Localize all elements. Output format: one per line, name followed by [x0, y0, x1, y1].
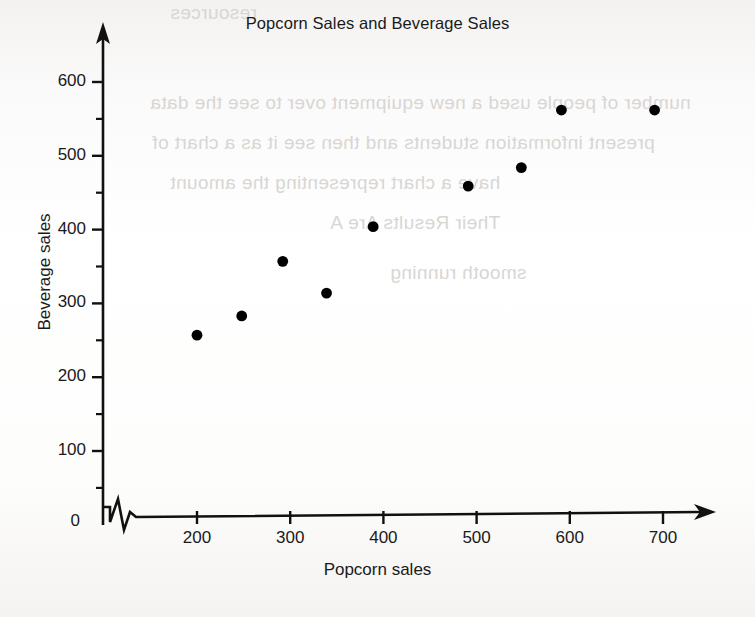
- y-axis-label: Beverage sales: [35, 182, 55, 362]
- x-tick-label: 600: [540, 528, 600, 548]
- data-point: [556, 105, 567, 116]
- plot-canvas: [0, 0, 755, 617]
- x-tick-label: 500: [447, 528, 507, 548]
- y-tick-label: 600: [26, 71, 86, 91]
- scatter-plot-figure: Popcorn Sales and Beverage Sales 2003004…: [0, 0, 755, 617]
- data-point: [192, 330, 203, 341]
- y-tick-label: 200: [26, 366, 86, 386]
- x-axis: [103, 499, 716, 530]
- data-point: [277, 256, 288, 267]
- x-tick-label: 200: [167, 528, 227, 548]
- data-point: [368, 221, 379, 232]
- data-point: [516, 162, 527, 173]
- y-axis: [96, 22, 110, 525]
- x-tick-label: 300: [260, 528, 320, 548]
- x-tick-label: 400: [353, 528, 413, 548]
- y-tick-label: 500: [26, 145, 86, 165]
- axis-tick-marks: [92, 82, 663, 524]
- data-point: [236, 311, 247, 322]
- data-point-group: [192, 105, 660, 341]
- data-point: [321, 288, 332, 299]
- x-axis-label: Popcorn sales: [0, 560, 755, 580]
- y-tick-label: 0: [20, 511, 80, 531]
- data-point: [463, 181, 474, 192]
- y-tick-label: 100: [26, 440, 86, 460]
- x-tick-label: 700: [633, 528, 693, 548]
- data-point: [649, 105, 660, 116]
